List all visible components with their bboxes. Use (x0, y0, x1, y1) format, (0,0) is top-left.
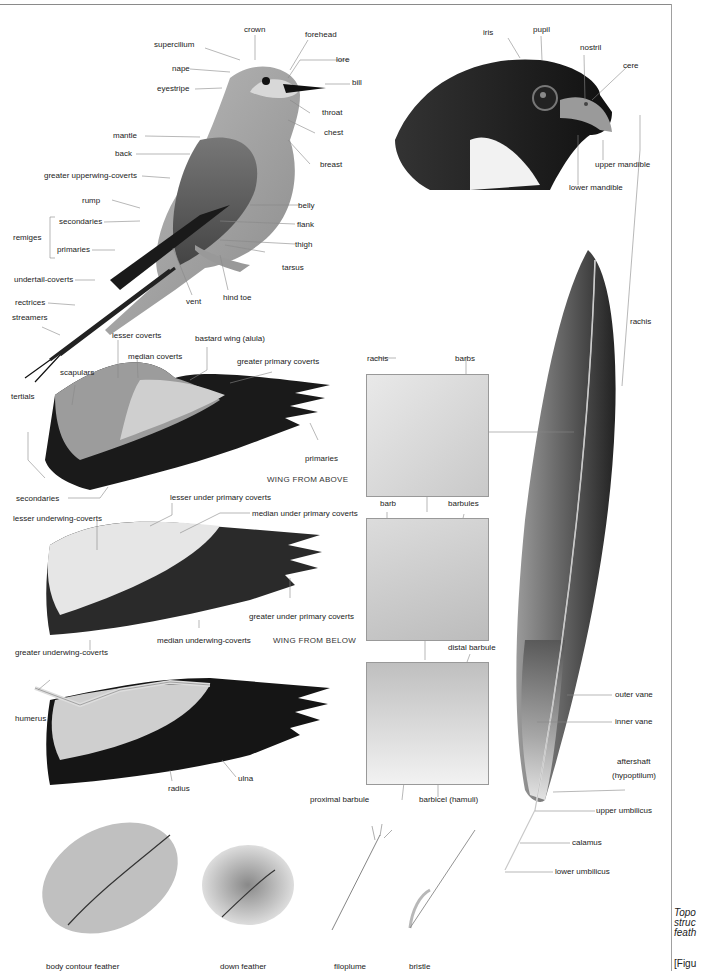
rachis-barbs-detail-panel (366, 374, 489, 497)
label-proximal-barbule: proximal barbule (310, 795, 369, 805)
label-flank: flank (297, 220, 314, 230)
label-calamus: calamus (572, 838, 602, 848)
label-primaries-above: primaries (305, 454, 338, 464)
caption-wing-from-below: WING FROM BELOW (273, 636, 356, 645)
side-caption-line3: feath (674, 927, 696, 938)
label-lesser-underwing-coverts: lesser underwing-coverts (13, 514, 102, 524)
label-outer-vane: outer vane (615, 690, 653, 700)
label-pupil: pupil (533, 25, 550, 35)
label-barbs: barbs (455, 354, 475, 364)
figure-reference: [Figu (674, 959, 696, 969)
label-rachis-detail: rachis (367, 354, 388, 364)
label-filoplume: filoplume (334, 962, 366, 971)
label-throat: throat (322, 108, 342, 118)
label-greater-upperwing-coverts: greater upperwing-coverts (44, 171, 137, 181)
label-lesser-coverts: lesser coverts (112, 331, 161, 341)
barbicel-detail-panel (366, 662, 489, 785)
label-upper-umbilicus: upper umbilicus (596, 806, 652, 816)
label-secondaries: secondaries (59, 217, 102, 227)
feather-types-illustration (23, 800, 475, 956)
label-humerus: humerus (15, 714, 46, 724)
caption-wing-from-above: WING FROM ABOVE (267, 475, 348, 484)
illustration-canvas (0, 0, 704, 971)
label-lesser-under-primary-coverts: lesser under primary coverts (170, 493, 271, 503)
label-cere: cere (623, 61, 639, 71)
label-bastard-wing: bastard wing (alula) (195, 334, 265, 344)
flight-feather-illustration (505, 250, 616, 870)
label-crown: crown (244, 25, 265, 35)
label-bristle: bristle (409, 962, 430, 971)
label-thigh: thigh (295, 240, 312, 250)
side-caption: Topo struc feath (674, 908, 696, 938)
label-rump: rump (82, 196, 100, 206)
label-barbules: barbules (448, 499, 479, 509)
label-vent: vent (186, 297, 201, 307)
label-iris: iris (483, 28, 493, 38)
label-streamers: streamers (12, 313, 48, 323)
label-distal-barbule: distal barbule (448, 643, 496, 653)
label-belly: belly (298, 201, 314, 211)
label-chest: chest (324, 128, 343, 138)
label-tarsus: tarsus (282, 263, 304, 273)
label-back: back (115, 149, 132, 159)
label-lower-mandible: lower mandible (569, 183, 623, 193)
label-primaries: primaries (57, 245, 90, 255)
label-upper-mandible: upper mandible (595, 160, 650, 170)
label-barb: barb (380, 499, 396, 509)
falcon-head-illustration (395, 59, 612, 190)
label-greater-underwing-coverts: greater underwing-coverts (15, 648, 108, 658)
label-aftershaft: aftershaft (617, 757, 650, 767)
label-radius: radius (168, 784, 190, 794)
label-eyestripe: eyestripe (157, 84, 189, 94)
label-secondaries-above: secondaries (16, 494, 59, 504)
label-rectrices: rectrices (15, 298, 45, 308)
wing-above-illustration (45, 362, 330, 490)
label-rachis: rachis (630, 317, 651, 327)
label-body-contour-feather: body contour feather (46, 962, 119, 971)
barbules-detail-panel (366, 518, 489, 641)
label-hind-toe: hind toe (223, 293, 251, 303)
label-median-coverts: median coverts (128, 352, 182, 362)
label-inner-vane: inner vane (615, 717, 652, 727)
label-median-underwing-coverts: median underwing-coverts (157, 636, 251, 646)
label-remiges: remiges (13, 233, 41, 243)
label-breast: breast (320, 160, 342, 170)
label-ulna: ulna (238, 774, 253, 784)
label-lower-umbilicus: lower umbilicus (555, 867, 610, 877)
label-lore: lore (336, 55, 349, 65)
label-forehead: forehead (305, 30, 337, 40)
label-nape: nape (172, 64, 190, 74)
label-greater-primary-coverts: greater primary coverts (237, 357, 319, 367)
label-tertials: tertials (11, 392, 35, 402)
label-median-under-primary-coverts: median under primary coverts (252, 509, 358, 519)
label-down-feather: down feather (220, 962, 266, 971)
label-mantle: mantle (113, 131, 137, 141)
label-scapulars: scapulars (60, 368, 94, 378)
label-greater-under-primary-coverts: greater under primary coverts (249, 612, 354, 622)
label-barbicel: barbicel (hamuli) (419, 795, 478, 805)
label-undertail-coverts: undertail-coverts (14, 275, 73, 285)
label-nostril: nostril (580, 43, 601, 53)
label-hypoptilum: (hypoptilum) (612, 771, 656, 781)
wing-skeleton-illustration (35, 678, 330, 785)
label-bill: bill (352, 78, 362, 88)
label-supercilium: supercilium (154, 40, 194, 50)
